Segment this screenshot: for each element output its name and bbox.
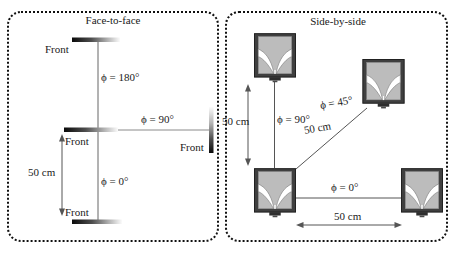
distance-label-vertical: 50 cm (222, 115, 249, 127)
angle-0-label-right: ϕ = 0° (331, 181, 358, 193)
side-by-side-title: Side-by-side (298, 15, 378, 27)
device-bar-bottom (72, 220, 122, 225)
speaker-icon-bottom-right (401, 169, 442, 218)
angle-0-label-left: ϕ = 0° (101, 175, 128, 187)
experiment-setup-figure: Face-to-face Front ϕ = 180° ϕ = 90° Fron… (0, 0, 461, 255)
speaker-icon-top-right (363, 59, 404, 108)
speaker-icon-bottom-left (254, 169, 295, 218)
front-label-bottom: Front (65, 206, 89, 218)
front-label-right: Front (180, 141, 204, 153)
distance-label-horizontal: 50 cm (334, 210, 361, 222)
angle-90-label-left: ϕ = 90° (141, 113, 174, 125)
device-bar-top (72, 38, 120, 43)
device-bar-right (209, 107, 214, 153)
device-bar-middle (64, 128, 118, 133)
front-label-middle: Front (65, 135, 89, 147)
angle-180-label: ϕ = 180° (101, 71, 139, 83)
face-to-face-title: Face-to-face (72, 14, 154, 26)
speaker-icon-top-left (254, 34, 295, 83)
distance-arrow-horizontal (296, 222, 402, 228)
distance-label-left-panel: 50 cm (28, 166, 55, 178)
front-label-top: Front (45, 43, 69, 55)
